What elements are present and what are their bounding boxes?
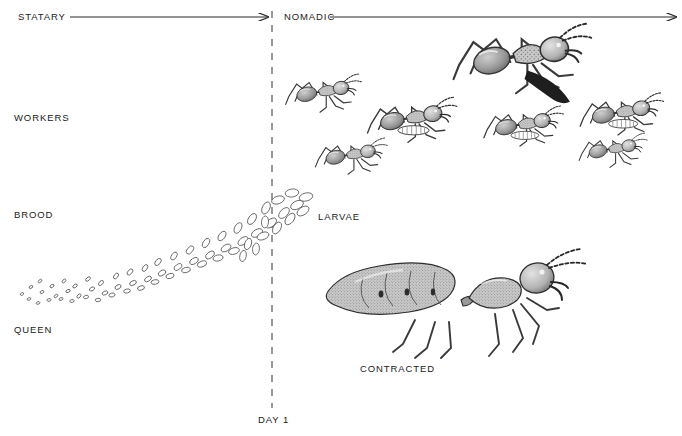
worker-ant-center (368, 97, 457, 142)
worker-ant-mid-right (484, 106, 564, 146)
annotation-contracted: CONTRACTED (360, 363, 435, 374)
annotation-larvae: LARVAE (318, 211, 360, 222)
figure-canvas: STATARY NOMADIC WORKERS BROOD QUEEN LARV… (0, 0, 682, 436)
worker-ant-far-right-upper (580, 93, 663, 135)
phase-label-nomadic: NOMADIC (284, 11, 335, 22)
worker-ant-large (454, 24, 592, 104)
worker-ant-lower-left (315, 138, 387, 174)
worker-ant-far-right-lower (579, 133, 647, 167)
annotation-day-1: DAY 1 (258, 414, 289, 425)
phase-label-statary: STATARY (18, 11, 66, 22)
worker-ant-upper-left (286, 74, 362, 112)
row-label-brood: BROOD (14, 209, 53, 220)
row-label-queen: QUEEN (14, 324, 52, 335)
queen-ant-contracted (326, 249, 587, 358)
row-label-workers: WORKERS (14, 112, 69, 123)
